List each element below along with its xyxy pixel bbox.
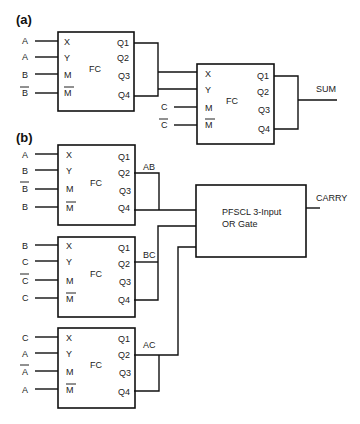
svg-text:X: X bbox=[64, 37, 70, 47]
block-label: FC bbox=[90, 269, 102, 279]
svg-text:X: X bbox=[66, 333, 72, 343]
fc-block-a1: A A B B X Y M M FC Q1 Q2 Q3 Q4 bbox=[20, 32, 134, 111]
svg-text:M: M bbox=[205, 120, 213, 130]
carry-label: CARRY bbox=[316, 193, 347, 203]
block-label: FC bbox=[89, 64, 101, 74]
fc-block-bc: B C C C X Y M M FC Q1 Q2 Q3 Q4 bbox=[20, 237, 135, 317]
svg-text:Q3: Q3 bbox=[119, 368, 131, 378]
svg-text:Y: Y bbox=[66, 166, 72, 176]
svg-text:B: B bbox=[22, 202, 28, 212]
ac-label: AC bbox=[143, 340, 156, 350]
input-label: A bbox=[22, 52, 28, 62]
wire-a1-to-a2 bbox=[134, 43, 197, 96]
block-label: FC bbox=[90, 360, 102, 370]
wire-ac: AC bbox=[134, 247, 196, 391]
svg-text:Q1: Q1 bbox=[257, 71, 269, 81]
fc-block-ac: C A A A X Y M M FC Q1 Q2 Q3 Q4 bbox=[20, 328, 135, 408]
svg-text:Y: Y bbox=[64, 53, 70, 63]
svg-text:A: A bbox=[22, 385, 28, 395]
or-gate-label-line1: PFSCL 3-Input bbox=[222, 207, 282, 217]
svg-text:X: X bbox=[205, 69, 211, 79]
svg-text:Q3: Q3 bbox=[118, 71, 130, 81]
svg-text:Y: Y bbox=[205, 85, 211, 95]
svg-text:C: C bbox=[22, 333, 29, 343]
sum-label: SUM bbox=[316, 84, 336, 94]
svg-text:M: M bbox=[66, 203, 74, 213]
block-label: FC bbox=[90, 178, 102, 188]
svg-text:M: M bbox=[66, 385, 74, 395]
svg-text:M: M bbox=[64, 88, 72, 98]
input-label: A bbox=[22, 36, 28, 46]
sum-output: SUM bbox=[274, 76, 337, 129]
svg-text:Q2: Q2 bbox=[118, 259, 130, 269]
svg-text:Q4: Q4 bbox=[118, 203, 130, 213]
carry-output: CARRY bbox=[306, 193, 347, 208]
svg-text:Q3: Q3 bbox=[119, 277, 131, 287]
svg-text:A: A bbox=[22, 150, 28, 160]
svg-text:C: C bbox=[22, 276, 29, 286]
svg-text:Q4: Q4 bbox=[258, 124, 270, 134]
svg-text:Y: Y bbox=[66, 257, 72, 267]
input-label: B bbox=[22, 88, 28, 98]
fc-block-a2: C C X Y M M FC Q1 Q2 Q3 Q4 bbox=[159, 64, 274, 144]
input-label: C bbox=[161, 120, 168, 130]
svg-text:M: M bbox=[66, 367, 74, 377]
fc-adder-diagram: (a) A A B B X Y M M FC Q1 Q2 Q3 Q4 C C bbox=[0, 0, 360, 424]
bc-label: BC bbox=[143, 250, 156, 260]
or-gate-label-line2: OR Gate bbox=[222, 219, 258, 229]
svg-text:Q2: Q2 bbox=[118, 168, 130, 178]
svg-text:Q4: Q4 bbox=[118, 387, 130, 397]
svg-text:M: M bbox=[66, 184, 74, 194]
svg-text:X: X bbox=[66, 241, 72, 251]
svg-text:Q2: Q2 bbox=[117, 53, 129, 63]
svg-text:M: M bbox=[205, 103, 213, 113]
svg-text:Q4: Q4 bbox=[118, 295, 130, 305]
input-label: B bbox=[22, 70, 28, 80]
wire-bc: BC bbox=[134, 226, 196, 300]
svg-text:B: B bbox=[22, 241, 28, 251]
svg-text:Y: Y bbox=[66, 349, 72, 359]
ab-label: AB bbox=[143, 162, 155, 172]
svg-text:Q1: Q1 bbox=[118, 152, 130, 162]
svg-text:Q3: Q3 bbox=[119, 186, 131, 196]
svg-text:Q1: Q1 bbox=[117, 38, 129, 48]
fc-block-ab: A B B B X Y M M FC Q1 Q2 Q3 Q4 bbox=[20, 145, 135, 225]
svg-text:Q2: Q2 bbox=[257, 87, 269, 97]
svg-text:Q4: Q4 bbox=[118, 90, 130, 100]
svg-text:M: M bbox=[66, 276, 74, 286]
wire-ab: AB bbox=[134, 162, 196, 210]
svg-text:C: C bbox=[22, 257, 29, 267]
or-gate-block: PFSCL 3-Input OR Gate bbox=[196, 185, 306, 257]
svg-text:Q1: Q1 bbox=[118, 334, 130, 344]
svg-text:A: A bbox=[22, 349, 28, 359]
svg-text:Q3: Q3 bbox=[258, 105, 270, 115]
svg-text:B: B bbox=[22, 184, 28, 194]
svg-text:B: B bbox=[22, 166, 28, 176]
svg-text:Q2: Q2 bbox=[118, 350, 130, 360]
svg-text:A: A bbox=[22, 367, 28, 377]
svg-text:M: M bbox=[66, 294, 74, 304]
input-label: C bbox=[161, 102, 168, 112]
part-a-label: (a) bbox=[16, 12, 32, 27]
block-label: FC bbox=[226, 96, 238, 106]
svg-text:Q1: Q1 bbox=[118, 243, 130, 253]
part-b-label: (b) bbox=[16, 130, 33, 145]
svg-text:M: M bbox=[64, 70, 72, 80]
svg-text:X: X bbox=[66, 150, 72, 160]
svg-text:C: C bbox=[22, 293, 29, 303]
